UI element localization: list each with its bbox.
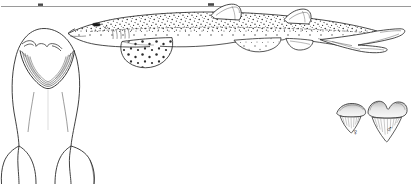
- anal-fin: [286, 38, 313, 50]
- female-symbol-label: ♀: [352, 128, 359, 137]
- figure-lateral-view: [66, 4, 405, 74]
- eye: [92, 23, 100, 26]
- mouth-tooth-bands: [23, 52, 74, 87]
- labial-furrow: [20, 51, 74, 57]
- second-dorsal-fin: [284, 9, 311, 24]
- right-flank: [71, 146, 94, 184]
- head-left-outline: [12, 29, 44, 147]
- left-fin-base: [19, 146, 36, 184]
- right-fin-base: [55, 146, 71, 184]
- tooth-crown-female: [337, 103, 366, 117]
- pectoral-fin: [118, 34, 180, 74]
- page-rule: [1, 3, 411, 6]
- figure-ventral-head-view: [1, 29, 94, 185]
- trunk-right-outline: [69, 146, 71, 184]
- nasal-flaps: [22, 41, 62, 51]
- pelvic-fin: [232, 34, 288, 58]
- throat-lines: [28, 90, 68, 132]
- male-symbol-label: ♂: [386, 125, 393, 134]
- left-flank: [1, 146, 19, 184]
- figure-tooth-male: [368, 101, 407, 142]
- trunk-left-outline: [18, 146, 19, 184]
- illustration-plate: [0, 0, 412, 184]
- head-right-outline: [44, 29, 80, 147]
